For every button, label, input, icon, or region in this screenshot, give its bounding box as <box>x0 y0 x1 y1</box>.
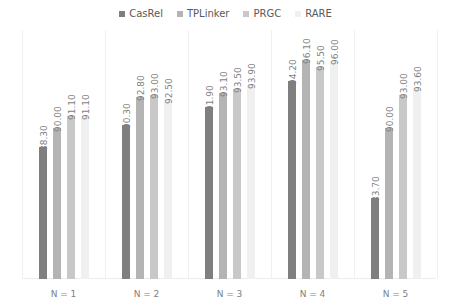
value-label: 83.70 <box>371 176 381 202</box>
value-label: 88.30 <box>39 125 49 151</box>
bar-rare-4 <box>330 61 338 279</box>
group-separator <box>437 30 438 279</box>
group-separator <box>188 30 189 279</box>
x-tick-label: N = 2 <box>105 289 188 299</box>
value-label: 93.00 <box>399 73 409 99</box>
group-separator <box>271 30 272 279</box>
legend-label: RARE <box>305 8 332 19</box>
group-separator <box>105 30 106 279</box>
legend-label: PRGC <box>253 8 281 19</box>
legend-item-casrel: CasRel <box>119 8 163 19</box>
value-label: 96.10 <box>302 38 312 64</box>
legend-swatch-icon <box>177 11 183 17</box>
legend-item-tplinker: TPLinker <box>177 8 230 19</box>
bar-tplinker-2 <box>136 97 144 279</box>
bar-prgc-4 <box>316 67 324 279</box>
bar-tplinker-4 <box>302 60 310 279</box>
value-label: 91.90 <box>205 85 215 111</box>
bar-prgc-1 <box>67 116 75 279</box>
bar-rare-3 <box>247 85 255 279</box>
chart-legend: CasRelTPLinkerPRGCRARE <box>0 8 451 19</box>
bar-casrel-4 <box>288 81 296 279</box>
legend-item-prgc: PRGC <box>243 8 281 19</box>
bar-rare-1 <box>81 116 89 279</box>
value-label: 94.20 <box>288 59 298 85</box>
bar-casrel-1 <box>39 147 47 279</box>
value-label: 92.80 <box>136 75 146 101</box>
bar-casrel-3 <box>205 107 213 279</box>
value-label: 90.30 <box>122 103 132 129</box>
x-tick-label: N = 1 <box>22 289 105 299</box>
bar-rare-5 <box>413 88 421 279</box>
value-label: 91.10 <box>81 94 91 120</box>
legend-item-rare: RARE <box>295 8 332 19</box>
value-label: 93.90 <box>247 63 257 89</box>
value-label: 90.00 <box>53 106 63 132</box>
group-separator <box>22 30 23 279</box>
x-tick-label: N = 3 <box>188 289 271 299</box>
value-label: 91.10 <box>67 94 77 120</box>
value-label: 90.00 <box>385 106 395 132</box>
value-label: 96.00 <box>330 39 340 65</box>
bar-rare-2 <box>164 100 172 279</box>
group-separator <box>354 30 355 279</box>
legend-label: CasRel <box>129 8 163 19</box>
value-label: 93.10 <box>219 71 229 97</box>
bar-prgc-5 <box>399 95 407 279</box>
value-label: 93.60 <box>413 66 423 92</box>
value-label: 93.50 <box>233 67 243 93</box>
legend-swatch-icon <box>119 11 125 17</box>
bar-casrel-5 <box>371 198 379 279</box>
x-tick-label: N = 4 <box>271 289 354 299</box>
x-tick-label: N = 5 <box>354 289 437 299</box>
value-label: 93.00 <box>150 73 160 99</box>
bar-tplinker-3 <box>219 93 227 279</box>
bar-prgc-3 <box>233 89 241 279</box>
bar-prgc-2 <box>150 95 158 279</box>
legend-label: TPLinker <box>187 8 230 19</box>
legend-swatch-icon <box>243 11 249 17</box>
bar-tplinker-5 <box>385 128 393 279</box>
legend-swatch-icon <box>295 11 301 17</box>
value-label: 92.50 <box>164 78 174 104</box>
bar-tplinker-1 <box>53 128 61 279</box>
value-label: 95.50 <box>316 45 326 71</box>
plot-area: 88.3090.0091.1091.1090.3092.8093.0092.50… <box>22 30 435 279</box>
bar-casrel-2 <box>122 125 130 279</box>
